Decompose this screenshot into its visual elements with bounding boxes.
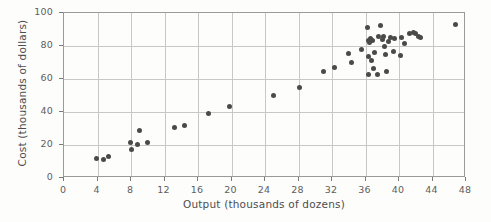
- data-point: [371, 66, 376, 71]
- x-axis-label: Output (thousands of dozens): [63, 198, 465, 210]
- x-tick-label: 32: [316, 184, 346, 195]
- y-tick: [59, 12, 63, 13]
- y-tick: [59, 78, 63, 79]
- data-point: [271, 93, 276, 98]
- data-point: [383, 52, 388, 57]
- data-point: [135, 142, 140, 147]
- x-tick-label: 8: [115, 184, 145, 195]
- x-tick: [264, 177, 265, 181]
- x-tick: [97, 177, 98, 181]
- plot-area: [63, 12, 465, 177]
- x-tick: [130, 177, 131, 181]
- gridline-vertical: [165, 13, 166, 176]
- data-point: [370, 38, 375, 43]
- data-point: [359, 47, 364, 52]
- data-point: [378, 23, 383, 28]
- x-tick: [331, 177, 332, 181]
- data-point: [349, 60, 354, 65]
- gridline-horizontal: [64, 46, 464, 47]
- data-point: [391, 49, 396, 54]
- data-point: [332, 65, 337, 70]
- data-point: [398, 53, 403, 58]
- y-axis-label: Cost (thousands of dollars): [16, 13, 28, 173]
- x-tick: [298, 177, 299, 181]
- data-point: [94, 156, 99, 161]
- data-point: [297, 85, 302, 90]
- x-tick: [465, 177, 466, 181]
- y-tick: [59, 144, 63, 145]
- x-tick: [432, 177, 433, 181]
- data-point: [372, 50, 377, 55]
- gridline-horizontal: [64, 112, 464, 113]
- x-tick-label: 44: [417, 184, 447, 195]
- data-point: [346, 51, 351, 56]
- gridline-vertical: [332, 13, 333, 176]
- data-point: [365, 25, 370, 30]
- gridline-vertical: [98, 13, 99, 176]
- x-tick: [197, 177, 198, 181]
- x-tick-label: 36: [350, 184, 380, 195]
- y-tick: [59, 177, 63, 178]
- x-tick-label: 16: [182, 184, 212, 195]
- data-point: [382, 44, 387, 49]
- gridline-vertical: [198, 13, 199, 176]
- data-point: [137, 128, 142, 133]
- data-point: [369, 58, 374, 63]
- x-tick: [365, 177, 366, 181]
- data-point: [399, 35, 404, 40]
- x-tick-label: 20: [216, 184, 246, 195]
- gridline-vertical: [232, 13, 233, 176]
- data-point: [101, 157, 106, 162]
- data-point: [129, 147, 134, 152]
- x-tick-label: 40: [383, 184, 413, 195]
- x-tick-label: 28: [283, 184, 313, 195]
- data-point: [206, 111, 211, 116]
- scatter-plot-figure: 04812162024283236404448 020406080100 Out…: [0, 0, 491, 222]
- data-point: [392, 36, 397, 41]
- x-tick-label: 12: [149, 184, 179, 195]
- data-point: [172, 125, 177, 130]
- gridline-vertical: [299, 13, 300, 176]
- x-tick: [164, 177, 165, 181]
- data-point: [182, 123, 187, 128]
- gridline-horizontal: [64, 145, 464, 146]
- data-point: [381, 34, 386, 39]
- data-point: [386, 39, 391, 44]
- gridline-horizontal: [64, 79, 464, 80]
- data-point: [106, 154, 111, 159]
- data-point: [418, 35, 423, 40]
- data-point: [375, 72, 380, 77]
- y-tick: [59, 111, 63, 112]
- data-point: [366, 72, 371, 77]
- x-tick: [231, 177, 232, 181]
- x-tick: [63, 177, 64, 181]
- x-tick-label: 0: [48, 184, 78, 195]
- data-point: [453, 22, 458, 27]
- gridline-vertical: [433, 13, 434, 176]
- y-tick: [59, 45, 63, 46]
- x-tick-label: 4: [82, 184, 112, 195]
- gridline-vertical: [265, 13, 266, 176]
- data-point: [128, 140, 133, 145]
- data-point: [384, 69, 389, 74]
- x-tick: [398, 177, 399, 181]
- x-tick-label: 48: [450, 184, 480, 195]
- x-tick-label: 24: [249, 184, 279, 195]
- data-point: [321, 69, 326, 74]
- data-point: [402, 41, 407, 46]
